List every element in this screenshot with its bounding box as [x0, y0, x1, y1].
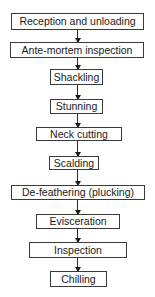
- step-neck-cutting: Neck cutting: [36, 127, 122, 141]
- step-inspection: Inspection: [29, 242, 127, 258]
- step-ante-mortem-inspection: Ante-mortem inspection: [10, 42, 144, 58]
- arrow-down-icon: [77, 200, 78, 214]
- step-chilling: Chilling: [50, 271, 107, 287]
- step-scalding: Scalding: [49, 156, 99, 170]
- step-stunning: Stunning: [50, 99, 103, 114]
- arrow-down-icon: [77, 170, 78, 185]
- step-evisceration: Evisceration: [36, 214, 120, 229]
- arrow-down-icon: [77, 141, 78, 156]
- arrow-down-icon: [77, 30, 78, 42]
- arrow-down-icon: [77, 258, 78, 271]
- arrow-down-icon: [77, 58, 78, 69]
- step-de-feathering: De-feathering (plucking): [11, 185, 145, 200]
- step-reception-unloading: Reception and unloading: [11, 13, 144, 30]
- step-shackling: Shackling: [50, 69, 103, 85]
- arrow-down-icon: [77, 229, 78, 242]
- arrow-down-icon: [77, 85, 78, 99]
- arrow-down-icon: [77, 114, 78, 127]
